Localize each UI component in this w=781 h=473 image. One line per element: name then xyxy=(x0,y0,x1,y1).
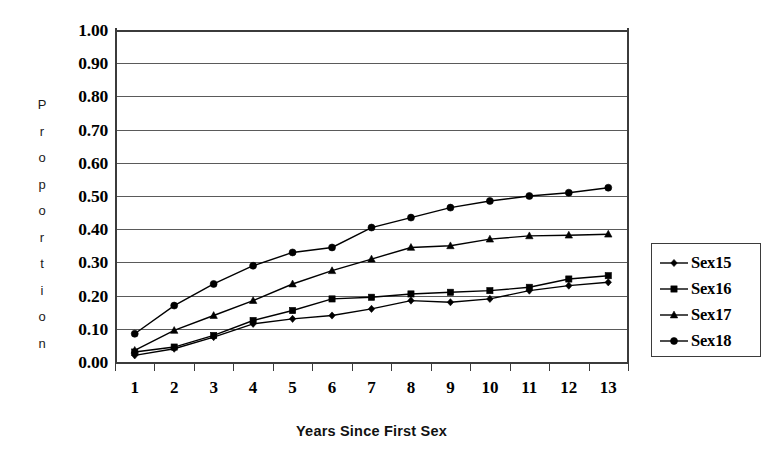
data-point-square xyxy=(250,317,256,323)
x-axis-title: Years Since First Sex xyxy=(115,423,628,439)
data-point-square xyxy=(408,291,414,297)
y-axis-tick-label: 0.40 xyxy=(56,219,108,240)
legend-label: Sex15 xyxy=(691,253,731,273)
x-axis-tick-mark xyxy=(312,362,313,371)
data-point-diamond xyxy=(487,295,493,302)
x-axis-tick-label: 2 xyxy=(154,378,194,398)
y-axis-tick-label: 0.50 xyxy=(56,186,108,207)
data-point-diamond xyxy=(447,299,453,306)
x-axis-tick-label: 1 xyxy=(115,378,155,398)
data-point-square xyxy=(171,344,177,350)
x-axis-tick-label: 3 xyxy=(194,378,234,398)
series-sex16 xyxy=(132,273,612,356)
legend: Sex15Sex16Sex17Sex18 xyxy=(651,243,761,357)
data-point-diamond xyxy=(329,312,335,319)
y-axis-tick-label: 0.10 xyxy=(56,318,108,339)
y-axis-title-letter: o xyxy=(38,198,45,225)
data-point-square xyxy=(329,296,335,302)
x-axis-tick-label: 7 xyxy=(352,378,392,398)
y-axis-tick-label: 0.80 xyxy=(56,86,108,107)
legend-label: Sex18 xyxy=(691,331,731,351)
x-axis-tick-mark xyxy=(628,362,629,371)
x-axis-tick-mark xyxy=(470,362,471,371)
series-sex17 xyxy=(131,230,612,353)
y-axis-title-letter: i xyxy=(41,278,44,305)
data-point-circle xyxy=(565,189,572,196)
data-point-circle xyxy=(486,197,493,204)
data-point-diamond xyxy=(289,315,295,322)
legend-marker-square-icon xyxy=(659,282,689,296)
data-point-square xyxy=(368,294,374,300)
series-line xyxy=(135,234,609,350)
y-axis-tick-label: 0.00 xyxy=(56,352,108,373)
x-axis-tick-label: 8 xyxy=(391,378,431,398)
legend-label: Sex17 xyxy=(691,305,731,325)
y-axis-tick-label: 0.30 xyxy=(56,252,108,273)
data-point-circle xyxy=(289,249,296,256)
x-axis-tick-mark xyxy=(233,362,234,371)
y-axis-tick-label: 0.20 xyxy=(56,285,108,306)
x-axis-tick-label: 11 xyxy=(509,378,549,398)
y-axis-title-letter: t xyxy=(40,251,44,278)
series-line xyxy=(135,276,609,352)
y-axis-title-letter: o xyxy=(38,145,45,172)
data-point-diamond xyxy=(368,305,374,312)
x-axis-tick-label: 10 xyxy=(470,378,510,398)
x-axis-tick-mark xyxy=(352,362,353,371)
legend-item-sex16[interactable]: Sex16 xyxy=(652,276,760,302)
data-point-square xyxy=(605,273,611,279)
data-point-circle xyxy=(368,224,375,231)
legend-marker-circle-icon xyxy=(659,334,689,348)
data-point-circle xyxy=(171,302,178,309)
data-point-circle xyxy=(210,280,217,287)
y-axis-title-letter: p xyxy=(38,172,45,199)
y-axis-title: Proportion xyxy=(33,92,51,357)
series-overlay xyxy=(115,30,628,362)
x-axis-tick-mark xyxy=(115,362,116,371)
legend-item-sex17[interactable]: Sex17 xyxy=(652,302,760,328)
y-axis-tick-label: 1.00 xyxy=(56,20,108,41)
y-axis-tick-label: 0.90 xyxy=(56,53,108,74)
y-axis-title-letter: o xyxy=(38,304,45,331)
data-point-circle xyxy=(447,204,454,211)
x-axis-tick-mark xyxy=(273,362,274,371)
data-point-diamond xyxy=(671,259,677,266)
data-point-diamond xyxy=(605,279,611,286)
data-point-diamond xyxy=(566,282,572,289)
y-axis-title-letter: P xyxy=(38,92,47,119)
data-point-circle xyxy=(250,262,257,269)
x-axis-tick-label: 4 xyxy=(233,378,273,398)
data-point-square xyxy=(447,289,453,295)
data-point-circle xyxy=(605,184,612,191)
y-axis-tick-labels: 1.000.900.800.700.600.500.400.300.200.10… xyxy=(56,0,108,473)
y-axis-title-letter: n xyxy=(38,331,45,358)
legend-label: Sex16 xyxy=(691,279,731,299)
data-point-circle xyxy=(671,338,678,345)
y-axis-tick-label: 0.70 xyxy=(56,119,108,140)
data-point-square xyxy=(487,288,493,294)
y-axis-tick-label: 0.60 xyxy=(56,152,108,173)
x-axis-tick-mark xyxy=(431,362,432,371)
x-axis-tick-mark xyxy=(194,362,195,371)
gridline xyxy=(115,362,628,364)
x-axis-tick-mark xyxy=(510,362,511,371)
x-axis-tick-label: 13 xyxy=(588,378,628,398)
y-axis-title-letter: r xyxy=(40,119,44,146)
data-point-circle xyxy=(407,214,414,221)
data-point-square xyxy=(289,307,295,313)
data-point-circle xyxy=(526,193,533,200)
y-axis-title-letter: r xyxy=(40,225,44,252)
legend-item-sex18[interactable]: Sex18 xyxy=(652,328,760,354)
data-point-circle xyxy=(329,244,336,251)
x-axis-tick-mark xyxy=(549,362,550,371)
x-axis-tick-label: 6 xyxy=(312,378,352,398)
chart-figure: Proportion 1.000.900.800.700.600.500.400… xyxy=(0,0,781,473)
legend-item-sex15[interactable]: Sex15 xyxy=(652,250,760,276)
x-axis-tick-label: 12 xyxy=(549,378,589,398)
x-axis-tick-label: 5 xyxy=(273,378,313,398)
data-point-square xyxy=(566,276,572,282)
x-axis-tick-mark xyxy=(589,362,590,371)
data-point-square xyxy=(211,332,217,338)
x-axis-tick-mark xyxy=(391,362,392,371)
legend-marker-diamond-icon xyxy=(659,256,689,270)
